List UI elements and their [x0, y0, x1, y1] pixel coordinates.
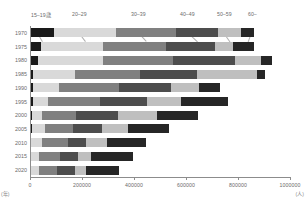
bar-segment[interactable]	[32, 111, 42, 120]
bar-segment[interactable]	[257, 70, 265, 79]
bar-segment[interactable]	[181, 97, 228, 106]
bar-segment[interactable]	[197, 70, 257, 79]
bar-segment[interactable]	[31, 152, 39, 161]
y-tick-label: 1985	[15, 71, 27, 77]
bar-segment[interactable]	[31, 166, 39, 175]
chart-row: 2005	[30, 124, 290, 133]
bar-segment[interactable]	[103, 56, 173, 65]
bar-segment[interactable]	[30, 42, 41, 51]
legend-item[interactable]: 30–39	[131, 11, 146, 17]
bar-segment[interactable]	[30, 56, 38, 65]
bar-segment[interactable]	[173, 56, 235, 65]
legend-item[interactable]: 15–19歳	[31, 11, 51, 18]
bar-segment[interactable]	[60, 152, 78, 161]
x-tick-label: 0	[29, 182, 32, 188]
bar-segment[interactable]	[86, 166, 120, 175]
bar-segment[interactable]	[42, 138, 68, 147]
bar-segment[interactable]	[78, 152, 91, 161]
bar-segment[interactable]	[102, 124, 128, 133]
chart-row: 2000	[30, 111, 290, 120]
bar-segment[interactable]	[38, 56, 103, 65]
bar-segment[interactable]	[107, 138, 146, 147]
bar-segment[interactable]	[100, 97, 147, 106]
bar-segment[interactable]	[118, 111, 157, 120]
bar-segment[interactable]	[75, 166, 85, 175]
bar-segment[interactable]	[176, 28, 218, 37]
bar-segment[interactable]	[54, 28, 116, 37]
bar-segment[interactable]	[76, 111, 118, 120]
bar-segment[interactable]	[140, 70, 197, 79]
bar-segment[interactable]	[32, 124, 45, 133]
bar-segment[interactable]	[31, 138, 41, 147]
bar-segment[interactable]	[57, 166, 75, 175]
bar-segment[interactable]	[41, 42, 103, 51]
bar-segment[interactable]	[30, 28, 54, 37]
bar-segment[interactable]	[166, 42, 215, 51]
bar-segment[interactable]	[33, 83, 59, 92]
x-tick	[30, 177, 31, 180]
legend-item[interactable]: 50–59	[217, 11, 232, 17]
chart-row: 2020	[30, 166, 290, 175]
legend-label: 30–39	[131, 11, 146, 17]
chart-legend: 15–19歳20–2930–3940–4950–5960–	[0, 11, 306, 25]
legend-item[interactable]: 60–	[248, 11, 257, 17]
legend-label: 40–49	[180, 11, 195, 17]
chart-row: 1990	[30, 83, 290, 92]
chart-row: 2010	[30, 138, 290, 147]
bar-segment[interactable]	[215, 42, 233, 51]
bar-segment[interactable]	[147, 97, 181, 106]
legend-item[interactable]: 20–29	[72, 11, 87, 17]
bar-segment[interactable]	[233, 42, 254, 51]
bar-segment[interactable]	[33, 97, 49, 106]
bar-segment[interactable]	[218, 28, 241, 37]
bar-segment[interactable]	[116, 28, 176, 37]
y-tick-label: 1975	[15, 44, 27, 50]
chart-row: 1975	[30, 42, 290, 51]
bar-segment[interactable]	[86, 138, 107, 147]
bar-segment[interactable]	[39, 166, 57, 175]
bar-segment[interactable]	[75, 70, 140, 79]
bar-segment[interactable]	[73, 124, 102, 133]
y-tick-label: 2005	[15, 126, 27, 132]
x-tick	[290, 177, 291, 180]
bar-segment[interactable]	[39, 152, 60, 161]
x-tick	[82, 177, 83, 180]
x-axis-unit-label: (人)	[296, 190, 304, 197]
bar-segment[interactable]	[241, 28, 254, 37]
bar-segment[interactable]	[91, 152, 133, 161]
chart-row: 2015	[30, 152, 290, 161]
legend-item[interactable]: 40–49	[180, 11, 195, 17]
bar-segment[interactable]	[42, 111, 76, 120]
chart-row: 1970	[30, 28, 290, 37]
y-tick-label: 2000	[15, 112, 27, 118]
x-tick	[186, 177, 187, 180]
x-tick-label: 800000	[229, 182, 247, 188]
y-axis-unit-label: (年)	[1, 190, 9, 197]
y-tick-label: 2015	[15, 153, 27, 159]
bar-segment[interactable]	[33, 70, 75, 79]
bar-segment[interactable]	[45, 124, 74, 133]
bar-segment[interactable]	[235, 56, 261, 65]
chart-row: 1985	[30, 70, 290, 79]
bar-segment[interactable]	[59, 83, 119, 92]
bar-segment[interactable]	[171, 83, 200, 92]
x-tick	[238, 177, 239, 180]
x-axis-line	[30, 177, 290, 178]
x-tick-label: 1000000	[280, 182, 301, 188]
bar-segment[interactable]	[103, 42, 165, 51]
x-tick-label: 200000	[73, 182, 91, 188]
y-tick-label: 1980	[15, 57, 27, 63]
y-tick-label: 2010	[15, 140, 27, 146]
bar-segment[interactable]	[128, 124, 170, 133]
bar-segment[interactable]	[48, 97, 100, 106]
bar-segment[interactable]	[261, 56, 271, 65]
chart-row: 1995	[30, 97, 290, 106]
y-axis-line	[30, 26, 31, 177]
bar-segment[interactable]	[68, 138, 86, 147]
y-tick-label: 2020	[15, 167, 27, 173]
bar-segment[interactable]	[119, 83, 171, 92]
bar-segment[interactable]	[157, 111, 199, 120]
bar-segment[interactable]	[199, 83, 220, 92]
legend-label: 60–	[248, 11, 257, 17]
legend-label: 15–19歳	[31, 11, 51, 18]
